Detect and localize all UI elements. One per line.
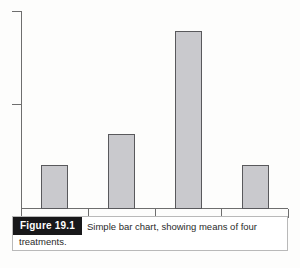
bar-1 <box>41 165 68 209</box>
caption-text-line-2: treatments. <box>13 235 287 250</box>
bar-2 <box>108 134 135 209</box>
caption-first-row: Figure 19.1Simple bar chart, showing mea… <box>13 217 287 235</box>
bar-4 <box>242 165 269 209</box>
bars-layer <box>0 0 300 209</box>
bar-chart-plot <box>0 0 300 214</box>
caption-text-line-1: Simple bar chart, showing means of four <box>82 221 257 232</box>
x-axis-tick-4 <box>288 209 289 218</box>
bar-3 <box>175 31 202 209</box>
figure-page: Figure 19.1Simple bar chart, showing mea… <box>0 0 300 268</box>
figure-number-label: Figure 19.1 <box>13 217 82 235</box>
figure-caption-box: Figure 19.1Simple bar chart, showing mea… <box>12 216 288 251</box>
